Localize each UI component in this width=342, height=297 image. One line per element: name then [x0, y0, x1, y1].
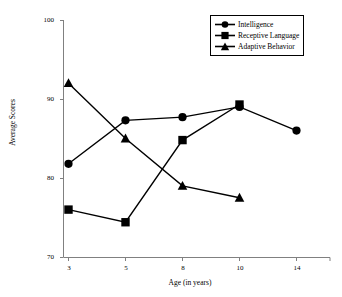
series-line [69, 105, 240, 223]
data-point-circle [178, 113, 186, 121]
data-point-square [64, 205, 72, 213]
x-tick-label-5: 5 [114, 264, 138, 272]
legend-label-receptive-language: Receptive Language [236, 31, 299, 41]
series-intelligence [64, 103, 300, 168]
data-point-square [178, 136, 186, 144]
data-point-circle [292, 127, 300, 135]
series-adaptive-behavior [64, 78, 245, 201]
legend-label-adaptive-behavior: Adaptive Behavior [236, 42, 295, 52]
x-tick-label-14: 14 [285, 264, 309, 272]
legend-item-adaptive-behavior: Adaptive Behavior [214, 41, 299, 52]
y-tick-marks [60, 21, 64, 258]
data-point-circle [121, 116, 129, 124]
y-tick-label-80: 80 [32, 174, 54, 182]
y-tick-label-70: 70 [32, 253, 54, 261]
y-tick-label-90: 90 [32, 95, 54, 103]
y-tick-label-100: 100 [32, 16, 54, 24]
x-tick-label-10: 10 [228, 264, 252, 272]
line-chart: 100 90 80 70 3 5 8 10 14 Average Scores … [0, 0, 342, 297]
legend-item-receptive-language: Receptive Language [214, 30, 299, 41]
series-layer [64, 78, 301, 226]
y-axis-title: Average Scores [8, 83, 17, 163]
x-tick-label-3: 3 [57, 264, 81, 272]
x-axis-title: Age (in years) [60, 278, 320, 287]
circle-marker-icon [214, 19, 236, 30]
data-point-triangle [64, 78, 74, 87]
legend-item-intelligence: Intelligence [214, 19, 299, 30]
triangle-marker-icon [214, 41, 236, 52]
x-tick-marks [69, 258, 331, 262]
data-point-circle [64, 160, 72, 168]
data-point-square [235, 100, 243, 108]
chart-legend: Intelligence Receptive Language Adaptive… [210, 15, 304, 56]
legend-label-intelligence: Intelligence [236, 20, 273, 30]
square-marker-icon [214, 30, 236, 41]
x-tick-label-8: 8 [171, 264, 195, 272]
data-point-square [121, 218, 129, 226]
